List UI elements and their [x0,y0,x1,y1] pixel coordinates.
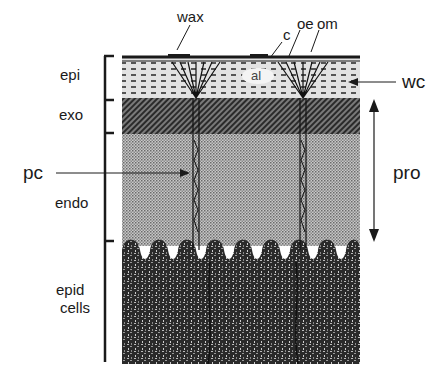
exocuticle-layer [122,98,360,134]
epicuticle-layer [122,58,360,98]
pro-arrow [369,99,379,242]
wax-leader [177,25,190,50]
label-om: om [317,16,338,31]
left-bracket [104,56,114,362]
label-exo: exo [59,107,83,122]
label-endo: endo [55,195,88,210]
label-oe: oe [297,16,314,31]
cuticle-diagram [0,0,446,386]
label-al: al [251,69,261,82]
epidermal-cells-layer [122,240,360,365]
label-epi: epi [60,67,80,82]
label-wc: wc [402,72,425,91]
label-cells: cells [60,300,90,315]
label-wax: wax [177,9,204,24]
label-epid: epid [56,282,84,297]
om-leader [311,30,319,52]
label-pc: pc [23,163,43,182]
endocuticle-layer [122,134,360,246]
label-c: c [283,27,291,42]
layers [122,58,360,364]
label-pro: pro [393,163,420,182]
